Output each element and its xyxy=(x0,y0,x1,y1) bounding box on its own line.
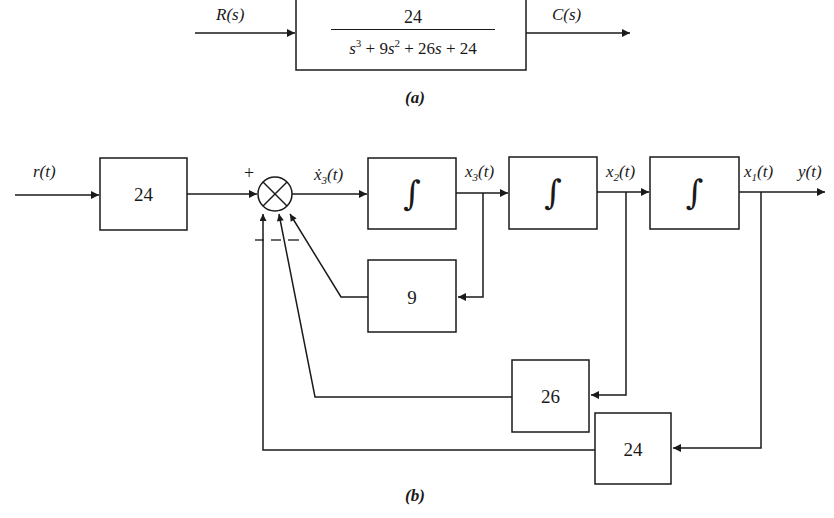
signal-x3dot-label: ẋ3(t) xyxy=(314,166,343,186)
caption-b: (b) xyxy=(405,486,425,506)
signal-x2-label: x2(t) xyxy=(606,163,635,183)
integrator-1-symbol: ∫ xyxy=(368,176,456,210)
signal-x1-label: x1(t) xyxy=(744,163,773,183)
integrator-2-symbol: ∫ xyxy=(509,175,597,209)
tf-numerator: 24 xyxy=(331,6,495,28)
output-label-C: C(s) xyxy=(552,6,581,23)
input-label-r: r(t) xyxy=(33,163,56,180)
output-label-y: y(t) xyxy=(798,163,822,180)
input-label-R: R(s) xyxy=(216,6,244,23)
tf-denominator: s3 + 9s2 + 26s + 24 xyxy=(331,32,495,60)
signal-x3-label: x3(t) xyxy=(465,163,494,183)
transfer-function: 24 s3 + 9s2 + 26s + 24 xyxy=(331,6,495,60)
plus-sign: + xyxy=(244,164,254,182)
gain-26-value: 26 xyxy=(512,387,589,406)
fraction-bar xyxy=(331,29,495,30)
gain-24-feedback-value: 24 xyxy=(595,440,671,459)
block-diagram-lines xyxy=(0,0,834,518)
caption-a: (a) xyxy=(405,88,425,108)
integrator-3-symbol: ∫ xyxy=(650,175,739,209)
input-gain-value: 24 xyxy=(100,185,187,204)
gain-9-value: 9 xyxy=(368,288,456,307)
